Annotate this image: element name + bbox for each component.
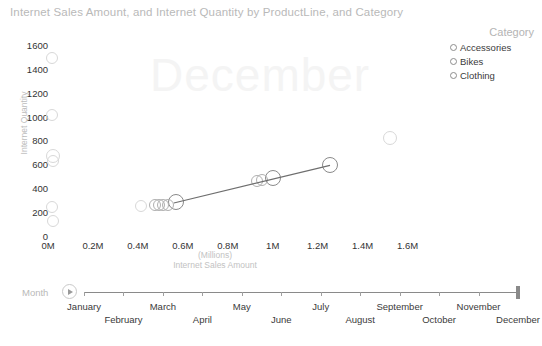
- legend-title: Category: [440, 26, 536, 38]
- legend-item[interactable]: Bikes: [440, 55, 536, 68]
- x-axis-title: Internet Sales Amount: [0, 260, 430, 270]
- legend-item[interactable]: Clothing: [440, 69, 536, 82]
- slider-label: Month: [22, 287, 48, 298]
- play-icon[interactable]: [62, 284, 77, 299]
- data-point-marker[interactable]: [46, 109, 58, 121]
- slider-tick: [202, 292, 203, 296]
- data-point-marker[interactable]: [47, 215, 59, 227]
- slider-tick: [123, 292, 124, 296]
- month-slider[interactable]: Month JanuaryFebruaryMarchAprilMayJuneJu…: [0, 283, 542, 343]
- data-point-marker[interactable]: [46, 201, 58, 213]
- month-label[interactable]: February: [104, 314, 142, 325]
- month-label[interactable]: March: [150, 301, 176, 312]
- slider-tick: [400, 292, 401, 296]
- slider-tick: [321, 292, 322, 296]
- legend-item-label: Bikes: [460, 55, 483, 68]
- month-label[interactable]: October: [422, 314, 456, 325]
- slider-tick: [439, 292, 440, 296]
- legend-items: AccessoriesBikesClothing: [440, 41, 536, 82]
- data-point-marker[interactable]: [135, 200, 147, 212]
- slider-tick: [479, 292, 480, 296]
- month-label[interactable]: November: [457, 301, 501, 312]
- slider-tick: [84, 292, 85, 296]
- x-axis-units: (Millions): [0, 250, 430, 260]
- month-label[interactable]: August: [345, 314, 375, 325]
- footer-cutoff-text: [12, 338, 532, 346]
- month-label[interactable]: December: [496, 314, 540, 325]
- legend-item-label: Accessories: [460, 41, 511, 54]
- dashboard-root: Internet Sales Amount, and Internet Quan…: [0, 0, 542, 346]
- legend-circle-icon: [450, 58, 457, 65]
- play-triangle-icon: [68, 289, 73, 295]
- data-point-marker[interactable]: [322, 157, 338, 173]
- data-point-marker[interactable]: [47, 155, 59, 167]
- data-point-marker[interactable]: [256, 174, 268, 186]
- month-label[interactable]: June: [271, 314, 292, 325]
- legend-circle-icon: [450, 72, 457, 79]
- slider-tick: [281, 292, 282, 296]
- legend-circle-icon: [450, 44, 457, 51]
- slider-tick: [360, 292, 361, 296]
- month-label[interactable]: July: [312, 301, 329, 312]
- legend-item[interactable]: Accessories: [440, 41, 536, 54]
- legend: Category AccessoriesBikesClothing: [440, 26, 536, 83]
- month-label[interactable]: May: [233, 301, 251, 312]
- data-point-marker[interactable]: [46, 52, 58, 64]
- data-point-marker[interactable]: [383, 131, 397, 145]
- slider-track[interactable]: [84, 292, 518, 293]
- month-label[interactable]: January: [67, 301, 101, 312]
- slider-handle[interactable]: [516, 286, 520, 299]
- slider-tick: [163, 292, 164, 296]
- month-label[interactable]: April: [193, 314, 212, 325]
- data-point-marker[interactable]: [162, 199, 174, 211]
- legend-item-label: Clothing: [460, 69, 495, 82]
- month-label[interactable]: September: [376, 301, 422, 312]
- slider-tick: [242, 292, 243, 296]
